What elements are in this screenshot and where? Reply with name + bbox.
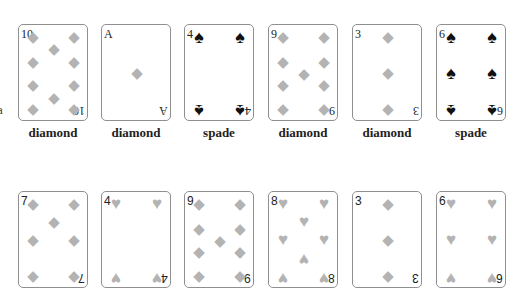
spade-icon: ♠ [485, 104, 499, 118]
spade-icon: ♠ [233, 104, 247, 118]
playing-card[interactable]: 33◆◆◆ [352, 191, 422, 288]
diamond-icon: ◆ [192, 247, 206, 261]
diamond-icon: ◆ [381, 271, 395, 285]
card-slot: 99◆◆◆◆◆◆◆◆◆diamond [268, 24, 338, 141]
playing-card[interactable]: 99◆◆◆◆◆◆◆◆◆ [268, 24, 338, 121]
playing-card[interactable]: 88♥♥♥♥♥♥♥♥ [268, 191, 338, 288]
diamond-icon: ◆ [213, 234, 227, 248]
diamond-icon: ◆ [67, 197, 81, 211]
diamond-icon: ◆ [26, 233, 40, 247]
diamond-icon: ◆ [381, 66, 395, 80]
diamond-icon: ◆ [276, 104, 290, 118]
card-suit-label: diamond [101, 125, 171, 141]
heart-icon: ♥ [150, 197, 164, 211]
heart-icon: ♥ [297, 215, 311, 229]
diamond-icon: ◆ [276, 55, 290, 69]
card-rank-top: 3 [355, 195, 362, 207]
spade-icon: ♠ [233, 30, 247, 44]
spade-icon: ♠ [485, 30, 499, 44]
playing-card[interactable]: 66♠♠♠♠♠♠ [436, 24, 506, 121]
heart-icon: ♥ [150, 271, 164, 285]
diamond-icon: ◆ [192, 222, 206, 236]
card-slot: 99◆◆◆◆◆◆◆◆◆ [184, 191, 254, 288]
diamond-icon: ◆ [233, 271, 247, 285]
heart-icon: ♥ [317, 197, 331, 211]
diamond-icon: ◆ [47, 42, 61, 56]
heart-icon: ♥ [317, 271, 331, 285]
card-suit-label: spade [436, 125, 506, 141]
spade-icon: ♠ [444, 104, 458, 118]
diamond-icon: ◆ [26, 104, 40, 118]
card-slot: AA◆diamond [101, 24, 171, 141]
diamond-icon: ◆ [317, 104, 331, 118]
card-suit-label: diamond [352, 125, 422, 141]
edge-text-fragment: a [0, 102, 3, 118]
card-slot: 1010◆◆◆◆◆◆◆◆◆◆diamond [18, 24, 88, 141]
playing-card[interactable]: 44♥♥♥♥ [101, 191, 171, 288]
spade-icon: ♠ [192, 30, 206, 44]
heart-icon: ♥ [297, 252, 311, 266]
card-rank-bottom: A [159, 105, 168, 117]
heart-icon: ♥ [485, 271, 499, 285]
spade-icon: ♠ [444, 30, 458, 44]
diamond-icon: ◆ [381, 233, 395, 247]
diamond-icon: ◆ [297, 67, 311, 81]
heart-icon: ♥ [276, 233, 290, 247]
diamond-icon: ◆ [26, 197, 40, 211]
diamond-icon: ◆ [26, 30, 40, 44]
diamond-icon: ◆ [67, 233, 81, 247]
card-suit-label: diamond [18, 125, 88, 141]
diamond-icon: ◆ [47, 215, 61, 229]
diamond-icon: ◆ [276, 30, 290, 44]
heart-icon: ♥ [485, 197, 499, 211]
diamond-icon: ◆ [192, 271, 206, 285]
diamond-icon: ◆ [192, 197, 206, 211]
heart-icon: ♥ [276, 197, 290, 211]
diamond-icon: ◆ [26, 271, 40, 285]
card-suit-label: spade [184, 125, 254, 141]
playing-card[interactable]: 99◆◆◆◆◆◆◆◆◆ [184, 191, 254, 288]
heart-icon: ♥ [109, 197, 123, 211]
spade-icon: ♠ [485, 66, 499, 80]
heart-icon: ♥ [485, 233, 499, 247]
playing-card[interactable]: AA◆ [101, 24, 171, 121]
diamond-icon: ◆ [26, 80, 40, 94]
diamond-icon: ◆ [381, 30, 395, 44]
diamond-icon: ◆ [233, 247, 247, 261]
diamond-icon: ◆ [381, 197, 395, 211]
diamond-icon: ◆ [67, 55, 81, 69]
card-slot: 88♥♥♥♥♥♥♥♥ [268, 191, 338, 288]
heart-icon: ♥ [444, 271, 458, 285]
heart-icon: ♥ [317, 233, 331, 247]
spade-icon: ♠ [444, 66, 458, 80]
card-slot: 66♠♠♠♠♠♠spade [436, 24, 506, 141]
card-suit-label: diamond [268, 125, 338, 141]
diamond-icon: ◆ [276, 80, 290, 94]
card-slot: 44♠♠♠♠spade [184, 24, 254, 141]
diamond-icon: ◆ [233, 197, 247, 211]
heart-icon: ♥ [444, 233, 458, 247]
heart-icon: ♥ [444, 197, 458, 211]
playing-card[interactable]: 66♥♥♥♥♥♥ [436, 191, 506, 288]
diamond-icon: ◆ [317, 30, 331, 44]
card-rank-bottom: 3 [413, 105, 419, 117]
spade-icon: ♠ [192, 104, 206, 118]
diamond-icon: ◆ [67, 30, 81, 44]
playing-card[interactable]: 33◆◆◆ [352, 24, 422, 121]
card-slot: 33◆◆◆diamond [352, 24, 422, 141]
card-rank-top: A [104, 28, 113, 40]
card-slot: 44♥♥♥♥ [101, 191, 171, 288]
diamond-icon: ◆ [233, 222, 247, 236]
diamond-icon: ◆ [67, 80, 81, 94]
card-slot: 66♥♥♥♥♥♥ [436, 191, 506, 288]
playing-card[interactable]: 77◆◆◆◆◆◆◆ [18, 191, 88, 288]
diamond-icon: ◆ [381, 104, 395, 118]
playing-card[interactable]: 1010◆◆◆◆◆◆◆◆◆◆ [18, 24, 88, 121]
diamond-icon: ◆ [67, 271, 81, 285]
playing-card[interactable]: 44♠♠♠♠ [184, 24, 254, 121]
card-slot: 33◆◆◆ [352, 191, 422, 288]
heart-icon: ♥ [276, 271, 290, 285]
diamond-icon: ◆ [67, 104, 81, 118]
card-slot: 77◆◆◆◆◆◆◆ [18, 191, 88, 288]
diamond-icon: ◆ [317, 80, 331, 94]
